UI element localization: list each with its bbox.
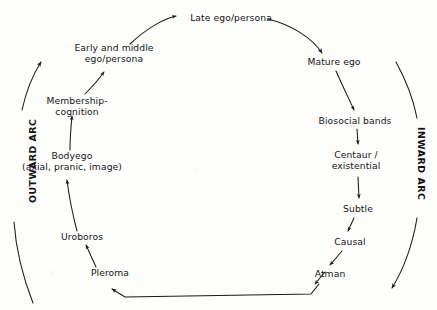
node-membership-line2: cognition [22,106,132,117]
node-membership-cognition: Membership- cognition [22,95,132,117]
arrow-centaur-to-subtle [358,177,359,198]
arrow-causal-to-atman [330,251,342,265]
inward-arc-label: INWARD ARC [416,127,427,200]
node-centaur-line1: Centaur / [311,149,401,160]
inward-arc-curve-upper [396,62,417,118]
arrow-subtle-to-causal [348,218,354,231]
node-causal: Causal [334,236,365,247]
arrow-biosocial-to-centaur [357,129,358,144]
outward-arc-curve-lower [14,222,33,303]
node-mature-ego: Mature ego [307,56,360,67]
node-late-ego-persona: Late ego/persona [190,12,272,23]
arrow-atman-to-pleroma-return [112,284,319,297]
node-bodyego-line2: (axial, pranic, image) [2,161,142,172]
node-biosocial-bands: Biosocial bands [319,115,392,126]
arrow-pleroma-to-uroboros [86,245,96,267]
node-centaur-existential: Centaur / existential [311,149,401,171]
arrow-membership-to-early-middle [85,72,104,94]
node-early-and-middle-ego: Early and middle ego/persona [54,42,174,64]
node-centaur-line2: existential [311,160,401,171]
inward-arc-curve-lower [392,218,417,288]
node-early-middle-line1: Early and middle [54,42,174,53]
arrow-bodyego-to-membership [70,116,72,150]
node-bodyego: Bodyego (axial, pranic, image) [2,150,142,172]
node-pleroma: Pleroma [91,267,129,278]
node-uroboros: Uroboros [61,231,103,242]
node-bodyego-line1: Bodyego [2,150,142,161]
arrow-mature-ego-to-biosocial [336,71,354,110]
arrow-late-ego-to-mature-ego [268,19,322,53]
node-subtle: Subtle [343,203,373,214]
arrow-early-middle-to-late-ego [130,16,176,44]
node-membership-line1: Membership- [22,95,132,106]
consciousness-arc-diagram: OUTWARD ARC INWARD ARC Pleroma Uroboros … [0,0,437,310]
node-atman: Atman [315,268,346,279]
node-early-middle-line2: ego/persona [54,53,174,64]
arrow-uroboros-to-bodyego [67,180,77,231]
